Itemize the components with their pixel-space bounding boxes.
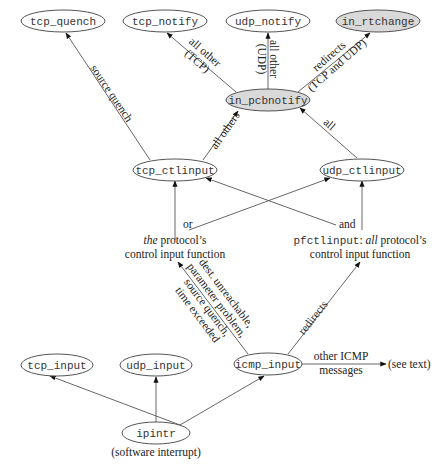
node-udp-notify: udp_notify <box>226 10 310 32</box>
edge-ipintr-to-tcp-input <box>50 376 180 425</box>
node-in-pcbnotify: in_pcbnotify <box>226 89 310 111</box>
node-in-rtchange: in_rtchange <box>336 10 420 32</box>
node-tcp-ctlinput-label: tcp_ctlinput <box>135 165 214 177</box>
edge-label-source-quench: source quench <box>88 62 136 124</box>
node-udp-notify-label: udp_notify <box>235 16 301 28</box>
node-udp-input-label: udp_input <box>126 360 185 372</box>
edge-or-to-udp-ctlinput <box>189 178 330 230</box>
node-tcp-notify-label: tcp_notify <box>132 16 198 28</box>
call-graph-diagram: source quench all other (TCP) all other … <box>0 0 441 466</box>
node-tcp-notify: tcp_notify <box>123 10 207 32</box>
caption-or: or <box>183 218 193 230</box>
caption-pfctlinput-all: pfctlinput: all protocol’s <box>293 234 427 247</box>
node-tcp-quench: tcp_quench <box>21 10 105 32</box>
node-in-pcbnotify-label: in_pcbnotify <box>228 95 308 107</box>
caption-the-protocols: the protocol’s <box>144 234 207 247</box>
edge-label-other-icmp-line1: other ICMP <box>314 350 369 362</box>
edge-and-to-tcp-ctlinput <box>206 178 336 225</box>
node-tcp-input-label: tcp_input <box>27 360 86 372</box>
node-tcp-ctlinput: tcp_ctlinput <box>133 159 217 181</box>
caption-software-interrupt: (software interrupt) <box>111 446 201 459</box>
caption-pfctlinput: pfctlinput <box>293 235 359 247</box>
node-ipintr-label: ipintr <box>136 428 176 440</box>
node-ipintr: ipintr <box>122 422 190 444</box>
edge-label-all-other-udp: all other (UDP) <box>255 40 280 78</box>
node-icmp-input-label: icmp_input <box>235 359 301 371</box>
node-udp-ctlinput-label: udp_ctlinput <box>322 165 401 177</box>
caption-all-italic: all <box>366 234 378 246</box>
edge-label-redirects-top: redirects (TCP and UDP) <box>297 27 369 94</box>
edge-label-icmp-errors: dest. unreachable, parameter problem, so… <box>166 253 259 354</box>
edge-label-all-other-tcp: all other (TCP) <box>178 35 223 79</box>
caption-control-input-right: control input function <box>310 248 411 261</box>
node-in-rtchange-label: in_rtchange <box>342 16 415 28</box>
caption-and: and <box>339 218 356 230</box>
node-tcp-input: tcp_input <box>21 354 93 376</box>
node-udp-input: udp_input <box>120 354 192 376</box>
edge-label-other-icmp-line2: messages <box>319 364 363 377</box>
caption-protocols: protocol’s <box>158 234 207 247</box>
node-icmp-input: icmp_input <box>234 353 302 375</box>
edge-label-all: all <box>321 116 338 133</box>
edge-label-all-other-udp-line1: all other <box>268 40 280 78</box>
edge-label-all-others: all others <box>208 109 242 151</box>
edge-label-redirects-bottom: redirects <box>296 298 330 337</box>
caption-control-input-left: control input function <box>125 248 226 261</box>
caption-see-text: (see text) <box>388 358 431 371</box>
caption-protocols-right: protocol’s <box>378 234 427 247</box>
edge-ipintr-to-icmp-input <box>180 376 264 425</box>
caption-the-italic: the <box>144 234 158 246</box>
node-tcp-quench-label: tcp_quench <box>30 16 96 28</box>
edge-label-all-other-udp-line2: (UDP) <box>255 44 268 75</box>
node-udp-ctlinput: udp_ctlinput <box>320 159 404 181</box>
